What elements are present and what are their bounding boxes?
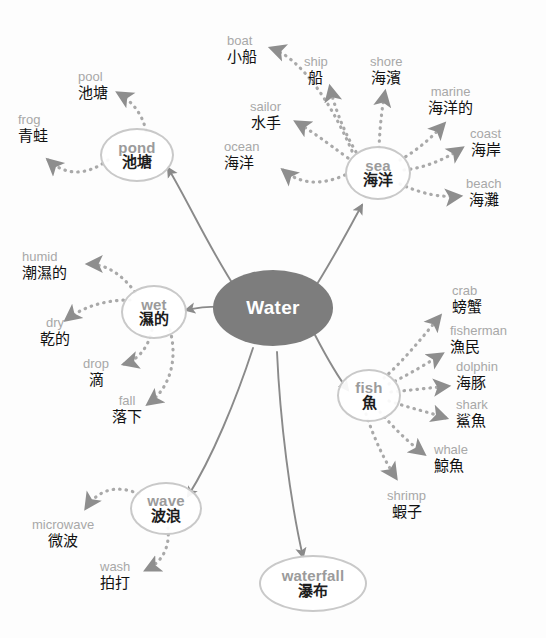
branch-node-fish-zh: 魚 — [362, 396, 377, 411]
leaf-frog[interactable]: frog 青蛙 — [18, 113, 48, 144]
leaf-coast-en: coast — [470, 127, 501, 142]
leaf-frog-en: frog — [18, 113, 48, 128]
edge-sea-marine — [400, 124, 444, 160]
leaf-sailor-en: sailor — [250, 100, 281, 115]
mindmap-canvas: Water pond 池塘 sea 海洋 wet 濕的 fish 魚 wave … — [0, 0, 546, 638]
center-node-water[interactable]: Water — [213, 270, 333, 346]
edge-fish-shrimp — [366, 414, 396, 478]
branch-node-waterfall[interactable]: waterfall 瀑布 — [259, 555, 367, 612]
center-node-label: Water — [246, 297, 300, 319]
branch-node-pond-zh: 池塘 — [122, 155, 152, 170]
leaf-microwave-en: microwave — [32, 518, 94, 533]
edge-water-waterfall — [277, 352, 303, 557]
leaf-shrimp-en: shrimp — [387, 489, 426, 504]
edge-sea-ocean — [283, 170, 345, 182]
leaf-whale-zh: 鯨魚 — [434, 458, 468, 475]
leaf-marine-en: marine — [428, 85, 473, 100]
branch-node-wave[interactable]: wave 波浪 — [130, 482, 202, 535]
branch-node-wet-zh: 濕的 — [139, 312, 169, 327]
leaf-marine-zh: 海洋的 — [428, 100, 473, 117]
leaf-shark-en: shark — [456, 398, 488, 413]
leaf-dolphin-zh: 海豚 — [456, 375, 498, 392]
leaf-crab-zh: 螃蟹 — [452, 299, 482, 316]
leaf-humid[interactable]: humid 潮濕的 — [22, 250, 67, 281]
leaf-coast[interactable]: coast 海岸 — [470, 127, 501, 158]
branch-node-wet[interactable]: wet 濕的 — [121, 285, 187, 339]
leaf-shore[interactable]: shore 海濱 — [370, 55, 403, 86]
leaf-drop-zh: 滴 — [83, 372, 109, 389]
leaf-fisherman-en: fisherman — [450, 324, 507, 339]
leaf-humid-en: humid — [22, 250, 67, 265]
leaf-boat-en: boat — [227, 34, 257, 49]
leaf-wash-zh: 拍打 — [100, 575, 130, 592]
leaf-pool-zh: 池塘 — [78, 85, 108, 102]
edge-pond-pool — [118, 93, 146, 131]
edge-fish-whale — [380, 412, 424, 454]
leaf-dry-zh: 乾的 — [40, 331, 70, 348]
leaf-microwave[interactable]: microwave 微波 — [32, 518, 94, 549]
leaf-microwave-zh: 微波 — [32, 533, 94, 550]
leaf-pool-en: pool — [78, 70, 108, 85]
leaf-shrimp-zh: 蝦子 — [387, 504, 426, 521]
leaf-sailor-zh: 水手 — [250, 115, 281, 132]
leaf-boat[interactable]: boat 小船 — [227, 34, 257, 65]
leaf-crab[interactable]: crab 螃蟹 — [452, 284, 482, 315]
edge-sea-shore — [379, 92, 385, 148]
edge-wet-humid — [88, 264, 135, 292]
leaf-ship[interactable]: ship 船 — [304, 55, 328, 86]
leaf-sailor[interactable]: sailor 水手 — [250, 100, 281, 131]
leaf-crab-en: crab — [452, 284, 482, 299]
leaf-boat-zh: 小船 — [227, 49, 257, 66]
leaf-wash-en: wash — [100, 560, 130, 575]
edge-wet-fall — [148, 330, 173, 404]
leaf-fall[interactable]: fall 落下 — [112, 394, 142, 425]
edge-fish-fisherman — [389, 354, 442, 384]
branch-node-wave-zh: 波浪 — [151, 509, 181, 524]
leaf-pool[interactable]: pool 池塘 — [78, 70, 108, 101]
leaf-humid-zh: 潮濕的 — [22, 265, 67, 282]
edge-pond-frog — [48, 160, 108, 172]
branch-node-pond[interactable]: pond 池塘 — [100, 128, 174, 182]
leaf-marine[interactable]: marine 海洋的 — [428, 85, 473, 116]
leaf-ocean-en: ocean — [224, 140, 259, 155]
leaf-dolphin[interactable]: dolphin 海豚 — [456, 360, 498, 391]
leaf-beach[interactable]: beach 海灘 — [466, 177, 501, 208]
leaf-wash[interactable]: wash 拍打 — [100, 560, 130, 591]
leaf-shark-zh: 鯊魚 — [456, 413, 488, 430]
edge-water-pond — [168, 168, 238, 292]
leaf-fall-zh: 落下 — [112, 409, 142, 426]
leaf-whale[interactable]: whale 鯨魚 — [434, 443, 468, 474]
branch-node-waterfall-zh: 瀑布 — [298, 584, 328, 599]
leaf-whale-en: whale — [434, 443, 468, 458]
leaf-ocean[interactable]: ocean 海洋 — [224, 140, 259, 171]
leaf-ocean-zh: 海洋 — [224, 155, 259, 172]
leaf-shark[interactable]: shark 鯊魚 — [456, 398, 488, 429]
leaf-beach-zh: 海灘 — [466, 192, 501, 209]
edge-sea-ship — [330, 87, 356, 152]
leaf-coast-zh: 海岸 — [470, 142, 501, 159]
edge-water-sea — [310, 205, 362, 295]
branch-node-sea-zh: 海洋 — [363, 173, 393, 188]
leaf-ship-en: ship — [304, 55, 328, 70]
edge-fish-crab — [384, 316, 440, 378]
leaf-shore-zh: 海濱 — [370, 70, 403, 87]
leaf-fisherman-zh: 漁民 — [450, 339, 507, 356]
leaf-dry[interactable]: dry 乾的 — [40, 316, 70, 347]
leaf-fall-en: fall — [112, 394, 142, 409]
leaf-dolphin-en: dolphin — [456, 360, 498, 375]
branch-node-fish[interactable]: fish 魚 — [337, 369, 401, 422]
leaf-frog-zh: 青蛙 — [18, 128, 48, 145]
edge-sea-beach — [400, 184, 460, 197]
leaf-beach-en: beach — [466, 177, 501, 192]
leaf-shrimp[interactable]: shrimp 蝦子 — [387, 489, 426, 520]
leaf-ship-zh: 船 — [304, 70, 328, 87]
leaf-drop[interactable]: drop 滴 — [83, 357, 109, 388]
edge-water-wave — [188, 348, 253, 496]
leaf-shore-en: shore — [370, 55, 403, 70]
branch-node-sea[interactable]: sea 海洋 — [345, 146, 411, 200]
leaf-dry-en: dry — [40, 316, 70, 331]
edge-sea-coast — [404, 148, 462, 170]
leaf-fisherman[interactable]: fisherman 漁民 — [450, 324, 507, 355]
leaf-drop-en: drop — [83, 357, 109, 372]
